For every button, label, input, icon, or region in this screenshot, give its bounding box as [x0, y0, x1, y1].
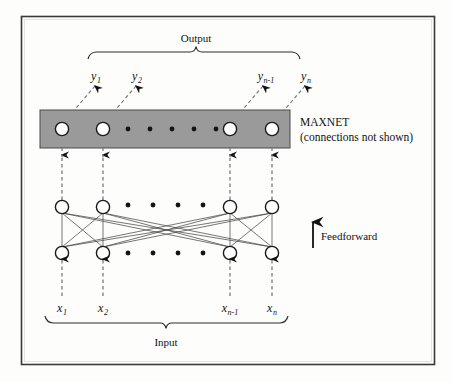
input-label-xn-1: xn-1	[221, 301, 239, 317]
maxnet-label-line1: MAXNET	[300, 116, 349, 128]
upper-node-1	[55, 200, 68, 213]
output-label-yn-1: yn-1	[257, 69, 275, 85]
upper-node-2	[96, 200, 109, 213]
maxnet-node-4	[265, 122, 278, 135]
upper-node-4	[265, 200, 278, 213]
lower-node-4	[265, 246, 278, 259]
input-label: Input	[154, 336, 177, 348]
input-bracket	[45, 316, 288, 329]
band-dashed-stubs	[62, 148, 272, 157]
output-bracket	[88, 47, 300, 60]
feedforward-label: Feedforward	[321, 230, 378, 242]
maxnet-node-3	[223, 122, 236, 135]
output-label: Output	[181, 32, 212, 44]
input-label-xn: xn	[266, 301, 277, 317]
maxnet-node-1	[55, 122, 68, 135]
output-label-y1: y1	[90, 69, 101, 85]
network-diagram: Output y1 y2 yn-1 yn	[0, 0, 452, 382]
figure-container: Output y1 y2 yn-1 yn	[0, 0, 452, 382]
upper-node-3	[223, 200, 236, 213]
lower-node-1	[55, 246, 68, 259]
output-label-yn: yn	[300, 69, 311, 85]
lower-node-3	[223, 246, 236, 259]
maxnet-band	[40, 110, 290, 148]
input-label-x1: x1	[56, 301, 67, 317]
maxnet-node-2	[96, 122, 109, 135]
maxnet-label-line2: (connections not shown)	[300, 131, 413, 144]
interlayer-connections	[62, 213, 272, 247]
lower-ellipsis-dots	[126, 251, 206, 256]
input-label-x2: x2	[97, 301, 108, 317]
lower-node-2	[96, 246, 109, 259]
output-label-y2: y2	[131, 69, 142, 85]
upper-ellipsis-dots	[126, 203, 206, 208]
